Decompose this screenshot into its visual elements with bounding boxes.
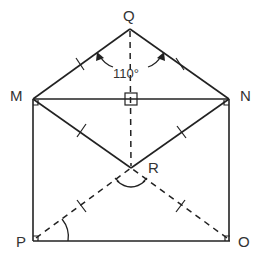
- segment-qr: [130, 31, 131, 166]
- tick-qn: [176, 58, 184, 70]
- dashed-lines: [36, 31, 227, 238]
- segment-or: [131, 168, 227, 238]
- angle-label-110: 110°: [113, 66, 139, 81]
- segment-mr: [33, 99, 131, 168]
- segment-qm: [33, 29, 130, 99]
- tick-nr: [177, 126, 186, 138]
- arc-prO-icon: [117, 181, 145, 187]
- label-m: M: [10, 87, 23, 104]
- label-o: O: [238, 233, 250, 250]
- label-p: P: [16, 233, 26, 250]
- segment-nr: [131, 99, 229, 168]
- segment-pr: [36, 168, 131, 238]
- arc-rpo-icon: [62, 219, 68, 241]
- label-q: Q: [123, 7, 135, 24]
- label-n: N: [240, 87, 251, 104]
- label-r: R: [148, 159, 159, 176]
- tick-or: [176, 200, 185, 212]
- geometry-diagram: Q M N R P O 110°: [0, 0, 267, 259]
